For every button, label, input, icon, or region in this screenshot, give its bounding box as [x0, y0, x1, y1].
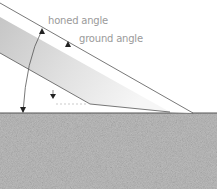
arrow-small-icon: [50, 94, 56, 99]
arrow-honed-bottom-icon: [20, 107, 26, 113]
ground-surface: [0, 113, 217, 189]
ground-angle-label: ground angle: [79, 33, 143, 44]
blade-body: [0, 17, 170, 112]
blade-angle-diagram: [0, 0, 217, 195]
honed-angle-label: honed angle: [48, 15, 108, 26]
